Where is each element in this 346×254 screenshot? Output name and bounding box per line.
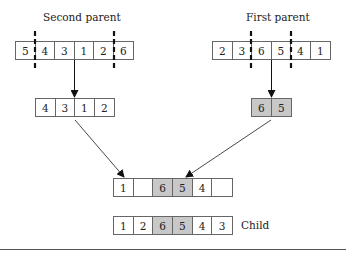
connectors	[0, 0, 346, 254]
arrow-diag-left	[75, 120, 124, 177]
arrow-diag-right	[186, 120, 271, 177]
